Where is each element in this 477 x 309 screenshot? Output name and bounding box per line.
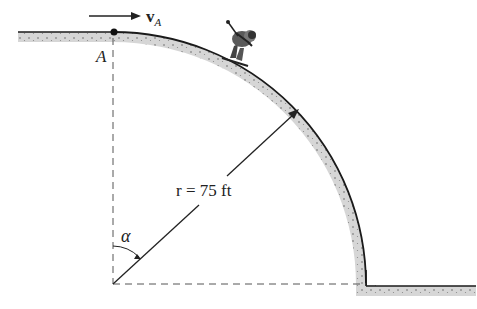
top-flat-surface	[18, 32, 114, 42]
bottom-flat-surface	[366, 270, 476, 296]
velocity-arrow	[89, 12, 141, 20]
skier-icon	[222, 20, 256, 66]
angle-label: α	[121, 226, 131, 246]
curved-surface	[113, 32, 376, 296]
curved-ramp-diagram: A vA r = 75 ft α	[0, 0, 477, 309]
point-a-marker	[111, 29, 118, 36]
radius-label: r = 75 ft	[176, 181, 232, 200]
angle-arc	[113, 246, 141, 259]
point-a-label: A	[95, 47, 107, 66]
velocity-label: vA	[146, 7, 162, 28]
